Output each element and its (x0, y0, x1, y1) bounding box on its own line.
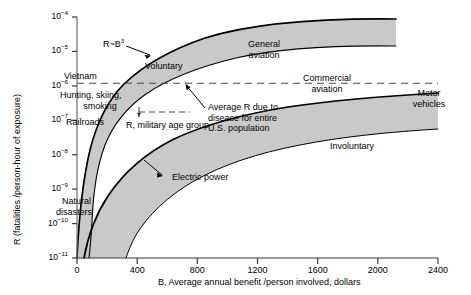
risk-benefit-chart: R (fatalities /person-hour of exposure) … (0, 0, 471, 295)
y-tick-label-1e-4: 10−4 (22, 11, 68, 21)
annotation-electric-power: Electric power (172, 172, 229, 183)
x-tick-label-0: 0 (57, 265, 97, 275)
y-tick-label-1e-8: 10−8 (22, 149, 68, 159)
annotation-railroads: Railroads (66, 117, 104, 128)
annotation-r-b-cubed: R~B3 (103, 39, 124, 50)
y-axis-title: R (fatalities /person-hour of exposure) (12, 94, 22, 245)
y-tick-label-1e-10: 10−10 (22, 218, 68, 228)
y-tick-label-1e-6: 10−6 (22, 80, 68, 90)
annotation-motor-vehicles-line2: vehicles (404, 99, 454, 110)
x-tick-label-800: 800 (177, 265, 217, 275)
rb3-arrow-head (145, 55, 152, 59)
annotation-natural-disasters-line2: disasters (56, 207, 92, 218)
annotation-hunting-line2: smoking (60, 101, 140, 112)
annotation-avg-disease-line1: Average R due to (208, 102, 278, 113)
annotation-general-aviation-line2: aviation (235, 50, 293, 61)
y-tick-label-1e-7: 10−7 (22, 114, 68, 124)
x-tick-label-1200: 1200 (238, 265, 278, 275)
x-axis-ticks (77, 258, 438, 264)
annotation-hunting-line1: Hunting, skiing, (60, 90, 122, 101)
military-arrow-head (137, 113, 141, 117)
annotation-military-age-group: R, military age group (126, 120, 209, 131)
annotation-avg-disease-line2: disease for entire (208, 113, 277, 124)
annotation-commercial-aviation-line1: Commercial (295, 73, 359, 84)
annotation-natural-disasters-line1: Natural (62, 196, 91, 207)
annotation-involuntary: Involuntary (330, 141, 374, 152)
x-tick-label-1600: 1600 (298, 265, 338, 275)
x-tick-label-2400: 2400 (418, 265, 458, 275)
annotation-motor-vehicles-line1: Motor (404, 88, 454, 99)
y-tick-label-1e-9: 10−9 (22, 183, 68, 193)
annotation-vietnam: Vietnam (64, 71, 97, 82)
y-tick-label-1e-5: 10−5 (22, 45, 68, 55)
y-axis-ticks (72, 17, 77, 258)
annotation-avg-disease-line3: U.S. population (208, 123, 270, 134)
x-axis-title: B, Average annual benefit /person involv… (158, 277, 360, 287)
annotation-general-aviation-line1: General (235, 39, 293, 50)
rb3-leader-line (126, 46, 150, 55)
y-tick-label-1e-11: 10−11 (22, 252, 68, 262)
x-tick-label-2000: 2000 (358, 265, 398, 275)
annotation-voluntary: Voluntary (145, 61, 183, 72)
annotation-commercial-aviation-line2: aviation (295, 84, 359, 95)
x-tick-label-400: 400 (117, 265, 157, 275)
